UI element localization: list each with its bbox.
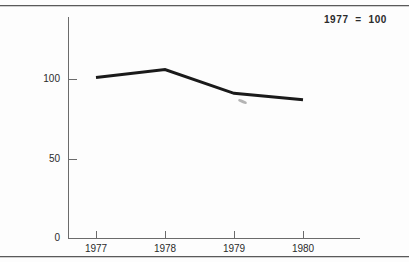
index-line-series [0, 0, 409, 262]
index-line-path [96, 70, 303, 100]
plot-area: 1977 = 100 100 50 0 1977 1978 1979 1980 [0, 0, 409, 262]
chart-figure: 1977 = 100 100 50 0 1977 1978 1979 1980 [0, 0, 409, 262]
